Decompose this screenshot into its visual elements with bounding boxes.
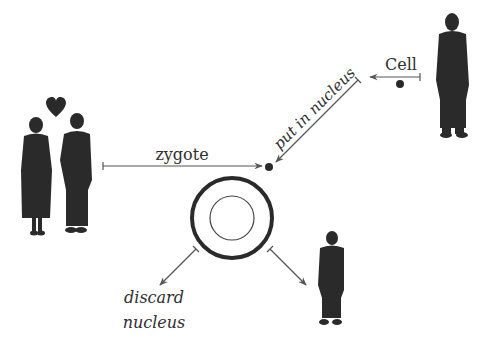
clone-arrow — [270, 249, 306, 285]
man-silhouette — [60, 113, 92, 233]
zygote-label: zygote — [155, 145, 208, 164]
cloning-diagram: zygote Cell put in nucleus discard nucle… — [0, 0, 488, 350]
egg-cell — [192, 178, 272, 258]
discard-label-line2: nucleus — [123, 313, 186, 332]
cell-label: Cell — [385, 55, 417, 74]
clone-silhouette — [318, 231, 344, 325]
zygote-dot — [265, 163, 273, 171]
heart-icon — [46, 97, 66, 117]
donor-silhouette — [436, 13, 469, 138]
egg-nucleus — [210, 196, 254, 240]
donor-nucleus-dot — [396, 80, 404, 88]
discard-label-line1: discard — [124, 288, 184, 307]
put-in-nucleus-label: put in nucleus — [270, 64, 359, 153]
woman-silhouette — [21, 117, 52, 236]
discard-arrow — [160, 249, 196, 285]
